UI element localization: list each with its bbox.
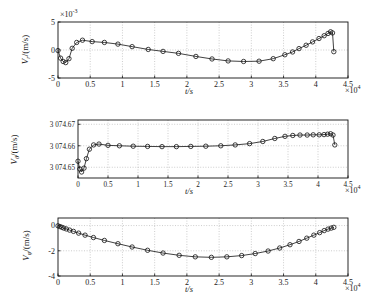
x-axis-label-vtheta: t/s	[185, 186, 193, 196]
svg-text:-5: -5	[48, 74, 55, 83]
svg-text:3: 3	[249, 278, 253, 287]
svg-text:0: 0	[51, 46, 55, 55]
svg-text:2.5: 2.5	[224, 181, 233, 189]
svg-text:1: 1	[120, 278, 124, 287]
plot-area-vtheta: 00.511.522.533.544.53 074.653 074.663 07…	[0, 100, 380, 200]
svg-text:1: 1	[120, 80, 124, 89]
y-axis-label-vtheta: Vθ/(m/s)	[6, 116, 22, 182]
svg-text:3 074.67: 3 074.67	[50, 121, 76, 129]
svg-text:1: 1	[136, 181, 140, 189]
y-axis-label-vphi: Vφ/(m/s)	[18, 214, 34, 276]
svg-text:3: 3	[256, 181, 260, 189]
svg-text:0: 0	[56, 278, 60, 287]
chart-panel-vtheta: Vθ/(m/s) ×104 t/s 00.511.522.533.544.53 …	[0, 100, 380, 200]
figure-container: Vr/(m/s) ×10-3 ×104 t/s 00.511.522.533.5…	[0, 0, 380, 300]
svg-text:3.5: 3.5	[284, 181, 293, 189]
svg-text:3.5: 3.5	[279, 278, 289, 287]
plot-area-vr: 00.511.522.533.544.5-505	[0, 0, 380, 100]
svg-text:0: 0	[56, 80, 60, 89]
x-axis-label-vphi: t/s	[185, 284, 193, 294]
svg-text:3 074.66: 3 074.66	[50, 143, 76, 151]
chart-panel-vphi: Vφ/(m/s) ×104 t/s 00.511.522.533.544.5-4…	[0, 200, 380, 300]
svg-text:3.5: 3.5	[279, 80, 289, 89]
svg-text:4: 4	[316, 181, 320, 189]
svg-text:0: 0	[51, 221, 55, 230]
svg-text:0: 0	[76, 181, 80, 189]
x-exponent-label-vphi: ×104	[345, 282, 361, 293]
x-exponent-label-vr: ×104	[345, 84, 361, 95]
svg-text:0.5: 0.5	[85, 80, 95, 89]
svg-text:1.5: 1.5	[150, 80, 160, 89]
svg-text:1.5: 1.5	[150, 278, 160, 287]
svg-text:-4: -4	[48, 272, 55, 281]
svg-text:2.5: 2.5	[214, 80, 224, 89]
svg-text:5: 5	[51, 18, 55, 27]
chart-panel-vr: Vr/(m/s) ×10-3 ×104 t/s 00.511.522.533.5…	[0, 0, 380, 100]
svg-text:3: 3	[249, 80, 253, 89]
svg-text:0.5: 0.5	[85, 278, 95, 287]
svg-text:2.5: 2.5	[214, 278, 224, 287]
svg-text:2: 2	[196, 181, 200, 189]
x-axis-label-vr: t/s	[185, 86, 193, 96]
svg-text:0.5: 0.5	[104, 181, 113, 189]
svg-text:4: 4	[314, 80, 318, 89]
svg-text:3 074.65: 3 074.65	[50, 164, 76, 172]
y-axis-label-vr: Vr/(m/s)	[18, 18, 34, 80]
svg-text:-2: -2	[48, 247, 55, 256]
y-exponent-label-vr: ×10-3	[60, 8, 78, 19]
svg-text:1.5: 1.5	[164, 181, 173, 189]
svg-text:4: 4	[314, 278, 318, 287]
x-exponent-label-vtheta: ×104	[345, 184, 361, 195]
